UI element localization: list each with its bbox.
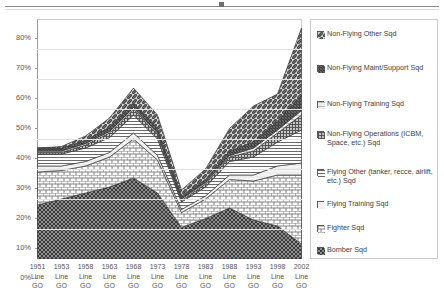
legend-item[interactable]: Non-Flying Operations (ICBM, Space, etc.… — [317, 130, 433, 147]
legend-swatch-icon — [317, 65, 324, 72]
legend-swatch-icon — [317, 247, 324, 254]
y-axis-tick-label: 10% — [16, 244, 31, 252]
legend-item[interactable]: Non-Flying Maint/Support Sqd — [317, 64, 433, 73]
legend-item-label: Flying Training Sqd — [327, 200, 389, 209]
y-axis-tick-label: 40% — [16, 154, 31, 162]
header-rule-secondary — [5, 9, 439, 10]
legend-item-label: Bomber Sqd — [327, 246, 367, 255]
y-axis-tick-label: 60% — [16, 94, 31, 102]
y-axis-tick-label: 80% — [16, 34, 31, 42]
y-axis-tick-label: 50% — [16, 124, 31, 132]
legend-swatch-icon — [317, 169, 324, 176]
legend-item[interactable]: Non-Flying Training Sqd — [317, 100, 433, 109]
legend-item[interactable]: Fighter Sqd — [317, 224, 433, 233]
legend-item[interactable]: Flying Other (tanker, recce, airlift, et… — [317, 168, 433, 185]
legend-item-label: Non-Flying Maint/Support Sqd — [327, 64, 423, 73]
chart-legend: Non-Flying Other SqdNon-Flying Maint/Sup… — [310, 19, 438, 259]
legend-item-label: Flying Other (tanker, recce, airlift, et… — [327, 168, 433, 185]
x-axis-tick-label-line: 2002 — [287, 262, 317, 272]
legend-swatch-icon — [317, 101, 324, 108]
chart-page: 0%10%20%30%40%50%60%70%80% 1951LineGO195… — [0, 0, 444, 302]
x-axis: 1951LineGO1953LineGO1958LineGO1963LineGO… — [37, 262, 302, 300]
gridline — [37, 169, 302, 170]
x-axis-tick-label: 2002LineGO — [287, 262, 317, 291]
legend-item[interactable]: Bomber Sqd — [317, 246, 433, 255]
x-axis-tick-label-line: Line — [287, 272, 317, 282]
x-axis-tick-label-line: GO — [287, 281, 317, 291]
gridline — [37, 199, 302, 200]
legend-item-label: Non-Flying Training Sqd — [327, 100, 404, 109]
legend-swatch-icon — [317, 225, 324, 232]
legend-item-label: Non-Flying Operations (ICBM, Space, etc.… — [327, 130, 433, 147]
legend-item-label: Fighter Sqd — [327, 224, 364, 233]
legend-swatch-icon — [317, 201, 324, 208]
gridline — [37, 79, 302, 80]
legend-item[interactable]: Flying Training Sqd — [317, 200, 433, 209]
gridline — [37, 49, 302, 50]
gridline — [37, 229, 302, 230]
y-axis-tick-label: 20% — [16, 214, 31, 222]
header-marker — [219, 2, 224, 7]
plot-area — [37, 19, 302, 259]
legend-item[interactable]: Non-Flying Other Sqd — [317, 30, 433, 39]
y-axis-tick-label: 30% — [16, 184, 31, 192]
legend-swatch-icon — [317, 131, 324, 138]
y-axis-tick-label: 70% — [16, 64, 31, 72]
gridline — [37, 109, 302, 110]
legend-swatch-icon — [317, 31, 324, 38]
y-axis: 0%10%20%30%40%50%60%70%80% — [0, 19, 35, 259]
legend-item-label: Non-Flying Other Sqd — [327, 30, 397, 39]
gridline — [37, 139, 302, 140]
